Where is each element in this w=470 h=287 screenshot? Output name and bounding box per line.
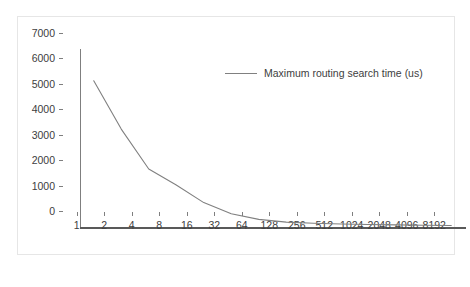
legend-line-swatch: [225, 73, 257, 74]
chart-container: 01000200030004000500060007000 1248163264…: [0, 0, 470, 287]
value-axis-tick-label: 3000: [14, 130, 55, 141]
value-axis-tick: [59, 84, 63, 85]
legend-label: Maximum routing search time (us): [264, 67, 423, 79]
category-axis-tick: [77, 212, 78, 216]
value-axis-tick: [59, 160, 63, 161]
value-axis-tick-label: 5000: [14, 79, 55, 90]
value-axis-tick-label: 0: [14, 206, 55, 217]
value-axis-tick-label: 1000: [14, 181, 55, 192]
value-axis-tick: [59, 186, 63, 187]
value-axis-tick-label: 7000: [14, 28, 55, 39]
legend: Maximum routing search time (us): [225, 67, 423, 79]
value-axis-tick-label: 2000: [14, 155, 55, 166]
value-axis-tick: [59, 109, 63, 110]
value-axis-tick: [59, 58, 63, 59]
value-axis-tick: [59, 33, 63, 34]
value-axis-tick: [59, 135, 63, 136]
chart-frame: 01000200030004000500060007000 1248163264…: [17, 16, 455, 255]
value-axis-tick-label: 4000: [14, 104, 55, 115]
category-axis-tick-label: 1: [74, 220, 80, 231]
series-line-maximum-routing-search-time: [94, 81, 452, 226]
value-axis-tick-label: 6000: [14, 53, 55, 64]
value-axis-tick: [59, 211, 63, 212]
